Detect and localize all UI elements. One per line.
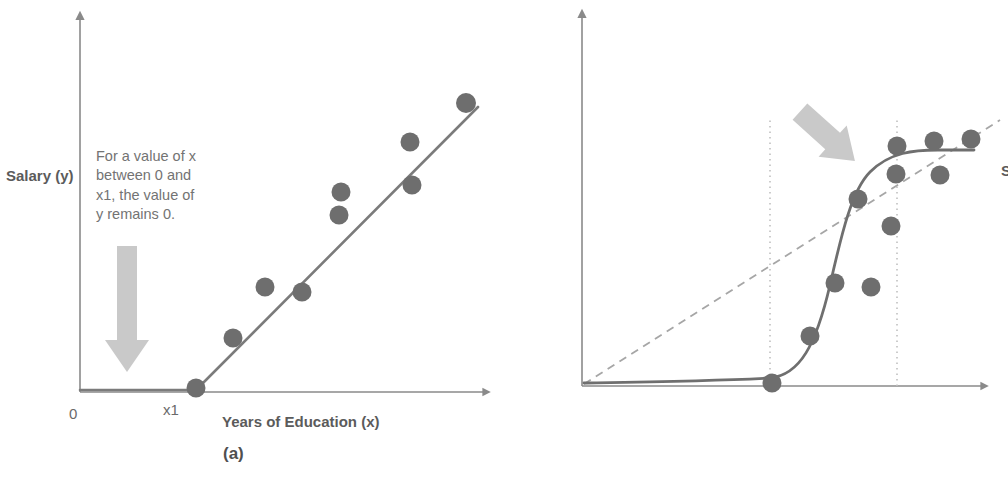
data-point	[931, 166, 950, 185]
panel-a-annotation: For a value of x between 0 and x1, the v…	[96, 147, 196, 224]
data-point	[256, 278, 275, 297]
data-point	[293, 283, 312, 302]
data-point	[187, 379, 206, 398]
panel-a-x-axis-label: Years of Education (x)	[222, 412, 380, 432]
panel-a-tick-x1: x1	[163, 400, 179, 420]
data-point	[849, 190, 868, 209]
down-right-arrow-icon	[786, 96, 869, 177]
panel-b: Salary (y) 0 x1 x2 Years of Education (x…	[504, 0, 1008, 478]
data-point	[925, 132, 944, 151]
down-arrow-icon	[105, 246, 149, 372]
data-point	[887, 165, 906, 184]
panel-b-y-axis-label: Salary (y)	[1001, 161, 1008, 181]
data-point	[224, 329, 243, 348]
data-point	[888, 137, 907, 156]
panel-b-linear-fit-line	[584, 120, 1000, 384]
panel-a-caption: (a)	[223, 443, 244, 465]
data-point	[332, 183, 351, 202]
data-point	[403, 176, 422, 195]
data-point	[330, 206, 349, 225]
panel-a: Salary (y) 0 x1 Years of Education (x) F…	[0, 0, 504, 478]
panel-a-origin-label: 0	[69, 404, 77, 424]
panel-b-plot	[504, 0, 1008, 478]
data-point	[763, 374, 782, 393]
data-point	[456, 93, 476, 113]
data-point	[862, 278, 881, 297]
data-point	[882, 217, 901, 236]
data-point	[962, 130, 981, 149]
data-point	[826, 274, 845, 293]
data-point	[801, 327, 820, 346]
data-point	[401, 133, 420, 152]
panel-a-data-points	[187, 93, 477, 398]
panel-b-sigmoid-curve	[584, 150, 974, 383]
panel-a-y-axis-label: Salary (y)	[6, 166, 74, 186]
figure-container: Salary (y) 0 x1 Years of Education (x) F…	[0, 0, 1008, 478]
